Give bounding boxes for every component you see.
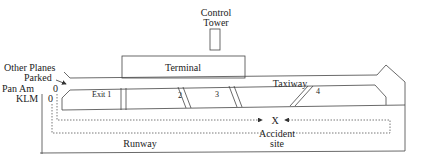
exit-2-line-b [183, 87, 191, 108]
runway-label: Runway [123, 138, 156, 149]
exit-4-line-b [295, 86, 313, 106]
control-tower-label-2: Tower [203, 17, 229, 28]
control-tower-shape [210, 29, 220, 50]
accident-x-mark: X [271, 115, 279, 126]
exit-4-label: 4 [316, 87, 320, 96]
other-planes-label-2: Parked [24, 72, 52, 83]
klm-label: KLM [16, 93, 38, 104]
klm-path-right [285, 120, 390, 133]
exit-1-label: Exit 1 [92, 90, 111, 99]
exit-3-label: 3 [215, 90, 219, 99]
terminal-label: Terminal [165, 62, 201, 73]
klm-marker: 0 [48, 93, 53, 104]
accident-label-2: site [270, 138, 284, 149]
runway-top-edge [62, 105, 405, 110]
taxiway-label: Taxiway [273, 78, 307, 89]
pan-am-path [57, 94, 262, 120]
exit-3-line-b [234, 86, 242, 107]
pan-am-marker: 0 [53, 83, 58, 94]
exit-4-line-a [290, 86, 308, 106]
airport-diagram: Control Tower Terminal Taxiway Exit 1 2 … [0, 0, 424, 160]
other-planes-leader [64, 72, 70, 78]
exit-3-line-a [229, 86, 237, 107]
